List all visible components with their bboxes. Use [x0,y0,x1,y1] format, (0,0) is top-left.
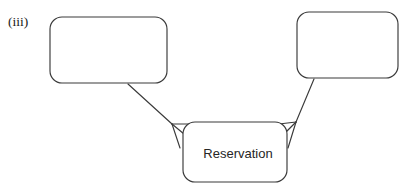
figure-caption: (iii) [8,14,28,29]
reservation-label: Reservation [203,146,272,161]
diagram-canvas: (iii) Reservation [0,0,413,194]
right-entity-box[interactable] [297,12,398,78]
connector-left-line [128,84,172,124]
left-entity-box[interactable] [50,17,167,83]
er-diagram: (iii) Reservation [0,0,413,194]
connector-right-line [296,79,314,122]
